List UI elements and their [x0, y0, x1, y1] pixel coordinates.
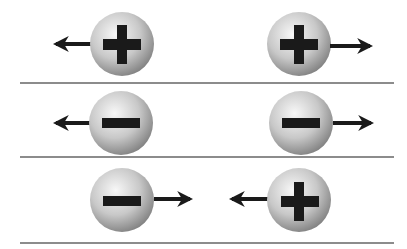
row-negative-positive	[90, 168, 331, 232]
row-positive-positive	[56, 12, 370, 76]
minus-icon	[282, 118, 320, 128]
minus-icon	[103, 196, 141, 206]
row-negative-negative	[56, 91, 371, 155]
minus-icon	[102, 118, 140, 128]
charge-diagram	[0, 0, 407, 249]
